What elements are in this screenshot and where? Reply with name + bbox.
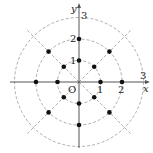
point xyxy=(34,80,39,85)
y-tick-1: 1 xyxy=(70,55,76,66)
y-tick-3: 3 xyxy=(81,10,87,21)
point xyxy=(92,95,97,100)
polar-diagram: O 1 2 3 x 1 2 3 y xyxy=(0,0,153,153)
x-tick-2: 2 xyxy=(118,84,124,95)
polar-grid-canvas: O 1 2 3 x 1 2 3 y xyxy=(0,0,153,153)
point xyxy=(77,37,82,42)
point xyxy=(107,110,112,115)
point xyxy=(61,64,66,69)
point xyxy=(61,95,66,100)
point xyxy=(77,101,82,106)
point xyxy=(46,49,51,54)
origin-label: O xyxy=(68,84,76,95)
point xyxy=(107,49,112,54)
y-axis-arrow-icon xyxy=(77,3,81,8)
y-tick-2: 2 xyxy=(70,33,76,44)
point xyxy=(92,64,97,69)
x-tick-3: 3 xyxy=(140,70,146,81)
y-axis-label: y xyxy=(70,3,77,14)
point xyxy=(55,80,60,85)
grid-ray-45 xyxy=(79,29,132,82)
point xyxy=(46,110,51,115)
point xyxy=(77,58,82,63)
x-tick-1: 1 xyxy=(97,84,103,95)
x-axis-label: x xyxy=(143,83,149,94)
point xyxy=(77,123,82,128)
